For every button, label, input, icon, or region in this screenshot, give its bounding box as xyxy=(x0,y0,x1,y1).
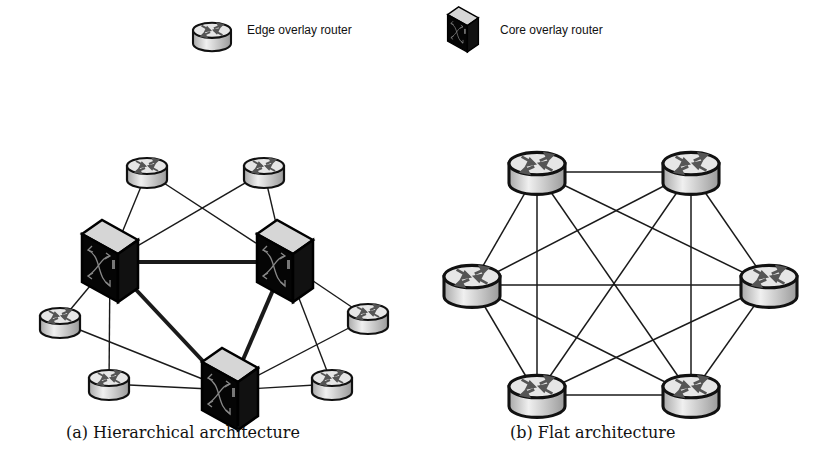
mesh-link xyxy=(537,285,769,395)
diagram-canvas xyxy=(0,0,821,476)
caption-hierarchical: (a) Hierarchical architecture xyxy=(66,423,300,442)
edge-router-icon xyxy=(509,375,565,417)
edge-router-icon xyxy=(663,152,719,194)
hierarchical-nodes xyxy=(40,158,388,430)
edge-router-icon xyxy=(244,158,284,188)
core-router-icon xyxy=(257,220,313,302)
core-router-icon xyxy=(202,348,258,430)
edge-router-legend-icon xyxy=(193,23,231,52)
edge-router-icon xyxy=(312,370,352,400)
core-router-icon xyxy=(82,220,138,302)
edge-router-icon xyxy=(40,308,80,338)
edge-router-icon xyxy=(741,265,797,307)
core-router-legend-icon xyxy=(448,7,479,52)
edge-router-icon xyxy=(663,375,719,417)
edge-router-icon xyxy=(127,158,167,188)
edge-router-icon xyxy=(89,370,129,400)
legend-edge-label: Edge overlay router xyxy=(247,23,352,37)
edge-router-icon xyxy=(348,304,388,334)
edge-router-icon xyxy=(509,152,565,194)
legend-core-label: Core overlay router xyxy=(500,23,603,37)
caption-flat: (b) Flat architecture xyxy=(510,423,675,442)
mesh-link xyxy=(537,172,769,285)
edge-router-icon xyxy=(444,265,500,307)
flat-mesh-links xyxy=(472,172,769,395)
